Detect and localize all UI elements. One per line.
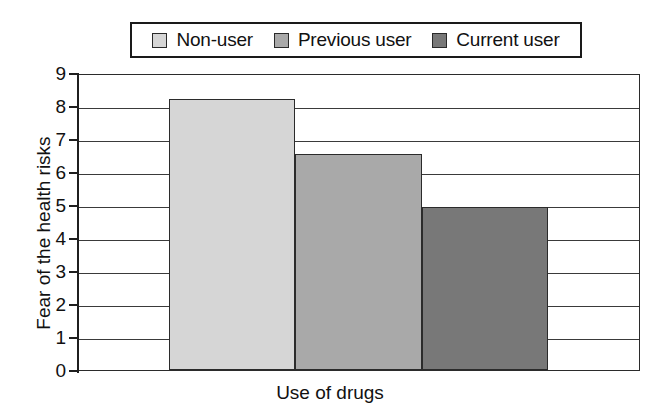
bar-non-user: [169, 99, 295, 370]
legend-label-previous-user: Previous user: [298, 29, 412, 51]
legend-label-current-user: Current user: [456, 29, 559, 51]
y-tick-mark: [69, 304, 78, 306]
chart-legend: Non-user Previous user Current user: [130, 22, 582, 58]
y-axis-title: Fear of the health risks: [33, 103, 55, 363]
y-tick-mark: [69, 370, 78, 372]
legend-swatch-current-user: [432, 33, 447, 48]
y-tick-label: 9: [44, 63, 66, 85]
y-tick-mark: [69, 238, 78, 240]
y-tick-mark: [69, 73, 78, 75]
legend-item-current-user: Current user: [432, 29, 559, 51]
y-axis-line: [77, 73, 79, 373]
legend-item-previous-user: Previous user: [274, 29, 412, 51]
legend-swatch-non-user: [152, 33, 167, 48]
y-tick-mark: [69, 271, 78, 273]
y-tick-mark: [69, 337, 78, 339]
bar-previous-user: [295, 154, 421, 370]
bar-current-user: [422, 207, 548, 370]
bars-layer: [79, 75, 639, 370]
y-tick-mark: [69, 106, 78, 108]
legend-swatch-previous-user: [274, 33, 289, 48]
y-tick-mark: [69, 139, 78, 141]
y-tick-mark: [69, 172, 78, 174]
legend-item-non-user: Non-user: [152, 29, 253, 51]
plot-area: [78, 74, 640, 371]
bar-chart: Non-user Previous user Current user 0123…: [0, 0, 660, 418]
x-axis-title: Use of drugs: [0, 382, 660, 404]
legend-label-non-user: Non-user: [176, 29, 253, 51]
y-tick-mark: [69, 205, 78, 207]
y-tick-label: 0: [44, 360, 66, 382]
